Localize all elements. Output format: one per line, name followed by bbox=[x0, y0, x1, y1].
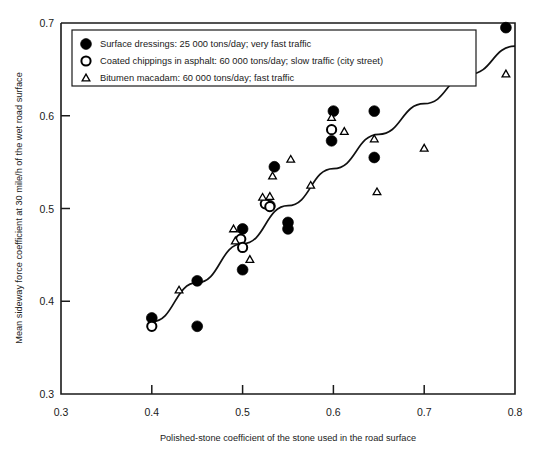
data-point bbox=[237, 224, 248, 235]
y-tick-label: 0.5 bbox=[39, 203, 54, 215]
y-axis-ticks bbox=[61, 116, 70, 302]
data-point bbox=[327, 125, 336, 134]
x-tick-label: 0.7 bbox=[417, 406, 432, 418]
y-tick-label: 0.6 bbox=[39, 110, 54, 122]
data-point bbox=[369, 106, 380, 117]
trend-line bbox=[152, 46, 515, 321]
data-point bbox=[269, 161, 280, 172]
y-tick-label: 0.7 bbox=[39, 17, 54, 29]
data-point bbox=[420, 144, 428, 151]
data-point bbox=[373, 188, 381, 195]
y-axis-title: Mean sideway force coefficient at 30 mil… bbox=[14, 72, 24, 344]
y-axis-tick-labels: 0.30.40.50.60.7 bbox=[39, 17, 54, 400]
legend-item-0: Surface dressings: 25 000 tons/day; very… bbox=[81, 39, 312, 50]
y-tick-label: 0.3 bbox=[39, 388, 54, 400]
data-point bbox=[230, 225, 238, 232]
data-point bbox=[283, 224, 294, 235]
chart-svg: 0.30.40.50.60.70.8 0.30.40.50.60.7 Polis… bbox=[0, 0, 546, 456]
data-point bbox=[501, 22, 512, 33]
data-point bbox=[328, 106, 339, 117]
data-point bbox=[265, 202, 274, 211]
data-point bbox=[237, 264, 248, 275]
x-axis-title: Polished-stone coefficient of the stone … bbox=[160, 433, 416, 443]
data-point bbox=[246, 256, 254, 263]
data-point bbox=[175, 286, 183, 293]
data-series-2 bbox=[175, 70, 510, 293]
x-tick-label: 0.6 bbox=[326, 406, 341, 418]
data-point bbox=[340, 128, 348, 135]
x-tick-label: 0.8 bbox=[508, 406, 523, 418]
data-point bbox=[502, 70, 510, 77]
x-axis-ticks bbox=[152, 385, 424, 394]
x-tick-label: 0.5 bbox=[235, 406, 250, 418]
data-point bbox=[369, 152, 380, 163]
data-point bbox=[266, 193, 274, 200]
legend-marker-filled-circle-icon bbox=[81, 39, 92, 50]
data-point bbox=[259, 194, 267, 201]
data-point bbox=[287, 155, 295, 162]
legend-marker-open-circle-icon bbox=[81, 56, 90, 65]
x-tick-label: 0.3 bbox=[54, 406, 69, 418]
data-point bbox=[192, 321, 203, 332]
data-point bbox=[192, 275, 203, 286]
scatter-chart-figure: 0.30.40.50.60.70.8 0.30.40.50.60.7 Polis… bbox=[0, 0, 546, 456]
data-point bbox=[147, 322, 156, 331]
legend-item-1: Coated chippings in asphalt: 60 000 tons… bbox=[81, 56, 383, 66]
legend-item-2: Bitumen macadam: 60 000 tons/day; fast t… bbox=[82, 73, 294, 83]
legend-item-label: Surface dressings: 25 000 tons/day; very… bbox=[100, 39, 312, 49]
y-tick-label: 0.4 bbox=[39, 295, 54, 307]
x-tick-label: 0.4 bbox=[144, 406, 159, 418]
legend-item-label: Coated chippings in asphalt: 60 000 tons… bbox=[100, 56, 383, 66]
x-axis-tick-labels: 0.30.40.50.60.70.8 bbox=[54, 406, 523, 418]
legend-item-label: Bitumen macadam: 60 000 tons/day; fast t… bbox=[100, 73, 294, 83]
legend: Surface dressings: 25 000 tons/day; very… bbox=[72, 30, 476, 86]
data-point bbox=[269, 172, 277, 179]
data-point bbox=[326, 135, 337, 146]
